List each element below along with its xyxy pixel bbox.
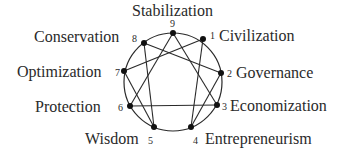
node-6-label: Protection [35, 99, 101, 115]
node-8-label: Conservation [34, 29, 119, 45]
node-4-label: Entrepreneurism [205, 131, 312, 147]
outer-circle [124, 33, 222, 131]
node-5-label: Wisdom [85, 131, 139, 147]
node-8-dot [141, 40, 147, 46]
node-7-label: Optimization [17, 64, 101, 80]
node-1-label: Civilization [219, 28, 295, 44]
node-6-dot [127, 103, 133, 109]
node-3-label: Economization [230, 98, 327, 114]
node-9-number: 9 [170, 19, 175, 29]
node-3-number: 3 [222, 102, 227, 112]
node-3-dot [214, 102, 220, 108]
node-1-number: 1 [210, 31, 215, 41]
node-9-label: Stabilization [132, 3, 213, 19]
node-8-number: 8 [132, 34, 137, 44]
node-2-number: 2 [227, 69, 232, 79]
node-5-number: 5 [148, 136, 153, 146]
edge-5-7 [124, 71, 154, 127]
edge-8-5 [144, 43, 154, 127]
node-5-dot [151, 124, 157, 130]
node-7-number: 7 [115, 68, 120, 78]
hexad-edges [124, 39, 221, 127]
node-6-number: 6 [118, 103, 123, 113]
node-9-dot [170, 30, 176, 36]
node-7-dot [121, 68, 127, 74]
edge-1-4 [191, 39, 203, 127]
node-4-dot [188, 124, 194, 130]
node-1-dot [200, 36, 206, 42]
node-2-label: Governance [236, 65, 313, 81]
node-4-number: 4 [193, 136, 198, 146]
node-2-dot [218, 70, 224, 76]
